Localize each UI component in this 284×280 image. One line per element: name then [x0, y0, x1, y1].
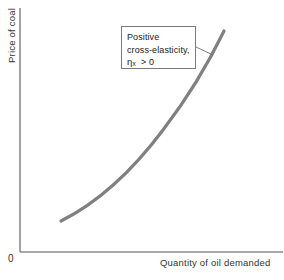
annotation-leader-line [196, 47, 213, 55]
eta-subscript: x [132, 60, 135, 67]
x-axis-label: Quantity of oil demanded [160, 257, 270, 268]
cross-elasticity-figure: Price of coal Quantity of oil demanded 0… [0, 0, 284, 280]
origin-label: 0 [8, 253, 14, 264]
y-axis-label: Price of coal [6, 1, 17, 71]
comparison-text: > 0 [141, 57, 154, 67]
annotation-line-3: ηx > 0 [127, 56, 195, 71]
annotation-line-1: Positive [127, 31, 195, 44]
annotation-box: Positive cross-elasticity, ηx > 0 [121, 26, 196, 69]
annotation-line-2: cross-elasticity, [127, 44, 195, 57]
